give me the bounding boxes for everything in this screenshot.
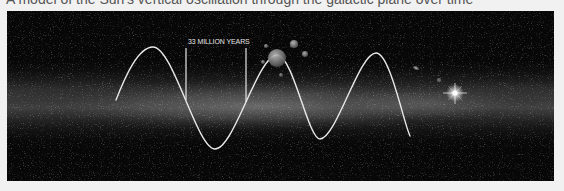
small-sphere xyxy=(261,60,265,64)
period-label: 33 MILLION YEARS xyxy=(188,38,250,45)
sun-sphere xyxy=(268,49,286,67)
cropped-caption-text: A model of the Sun's vertical oscillatio… xyxy=(6,0,564,7)
galactic-oscillation-figure: 33 MILLION YEARS xyxy=(7,11,554,181)
small-sphere xyxy=(302,51,308,57)
distant-star xyxy=(437,78,441,82)
star-field xyxy=(7,11,554,181)
page: A model of the Sun's vertical oscillatio… xyxy=(0,0,564,191)
small-sphere xyxy=(290,40,298,48)
small-sphere xyxy=(264,44,268,48)
small-sphere xyxy=(279,73,283,77)
figure-canvas xyxy=(7,11,554,181)
